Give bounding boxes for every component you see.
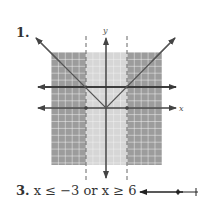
problem-3-inequality: x ≤ −3 or x ≥ 6 (34, 183, 137, 198)
closed-point (176, 190, 180, 194)
point-3 (125, 106, 129, 110)
problem-3: 3. x ≤ −3 or x ≥ 6 (16, 183, 136, 198)
y-axis-label: y (102, 26, 108, 35)
number-line (138, 185, 198, 199)
x-axis-label: x (179, 104, 184, 113)
problem-3-label: 3. (16, 183, 30, 198)
point-neg3 (84, 106, 88, 110)
absolute-value-graph: y x (0, 0, 198, 180)
